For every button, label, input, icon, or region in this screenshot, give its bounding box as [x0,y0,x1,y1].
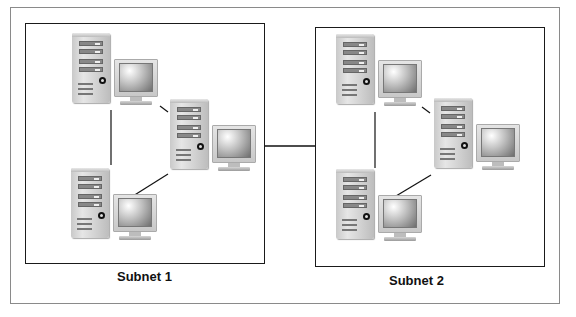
subnet-1-label: Subnet 1 [117,269,172,284]
subnet-2-computer-2 [434,98,544,178]
tower-icon [336,34,374,104]
subnet-2-computer-1 [336,34,446,114]
subnet-1-computer-2 [170,99,280,179]
tower-icon [71,168,109,238]
tower-icon [72,33,110,103]
monitor-icon [114,59,158,97]
tower-icon [434,98,472,168]
monitor-icon [378,195,422,233]
subnet-1-computer-1 [72,33,182,113]
monitor-icon [212,125,256,163]
subnet-1-computer-3 [71,168,181,248]
tower-icon [336,169,374,239]
subnet-2-computer-3 [336,169,446,249]
monitor-icon [476,124,520,162]
tower-icon [170,99,208,169]
monitor-icon [113,194,157,232]
monitor-icon [378,60,422,98]
subnet-2-label: Subnet 2 [389,273,444,288]
